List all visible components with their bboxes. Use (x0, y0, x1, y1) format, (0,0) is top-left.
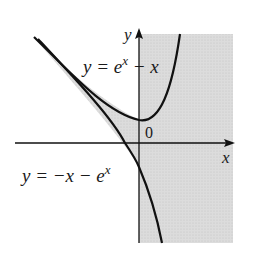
upper-curve-label: y = ex − x (81, 53, 159, 77)
x-axis-label: x (221, 148, 230, 167)
diagram-canvas: y y = ex − x 0 x y = −x − ex (0, 0, 253, 260)
origin-label: 0 (145, 124, 153, 141)
lower-curve-label: y = −x − ex (20, 162, 111, 186)
y-axis-label: y (122, 25, 132, 44)
